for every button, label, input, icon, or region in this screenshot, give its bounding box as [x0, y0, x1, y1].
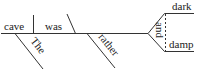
word-complement-dark: dark [172, 0, 192, 12]
word-subject: cave [4, 20, 24, 32]
word-verb: was [45, 20, 62, 32]
word-complement-damp: damp [169, 38, 194, 50]
sentence-diagram: cave was The rather and dark damp [0, 0, 199, 80]
complement-divider [67, 14, 76, 34]
word-subject-modifier: The [28, 35, 48, 56]
word-adverb-modifier: rather [96, 31, 122, 59]
word-conjunction: and [154, 22, 166, 38]
